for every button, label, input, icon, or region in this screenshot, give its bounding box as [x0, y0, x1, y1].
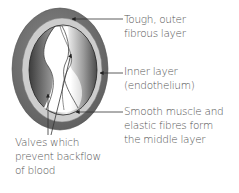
label-outer-fibrous-layer: Tough, outer fibrous layer — [124, 12, 186, 40]
label-middle-line2: elastic fibres form — [124, 118, 223, 132]
label-outer-line1: Tough, outer — [124, 12, 186, 26]
label-inner-line1: Inner layer — [124, 64, 194, 78]
label-valves-line1: Valves which — [15, 135, 101, 149]
label-middle-layer: Smooth muscle and elastic fibres form th… — [124, 104, 223, 146]
label-inner-line2: (endothelium) — [124, 78, 194, 92]
label-middle-line1: Smooth muscle and — [124, 104, 223, 118]
label-valves-line3: of blood — [15, 163, 101, 177]
vein-cross-section-diagram: Tough, outer fibrous layer Inner layer (… — [0, 0, 239, 193]
label-valves: Valves which prevent backflow of blood — [15, 135, 101, 177]
label-valves-line2: prevent backflow — [15, 149, 101, 163]
label-outer-line2: fibrous layer — [124, 26, 186, 40]
label-inner-layer: Inner layer (endothelium) — [124, 64, 194, 92]
label-middle-line3: the middle layer — [124, 132, 223, 146]
